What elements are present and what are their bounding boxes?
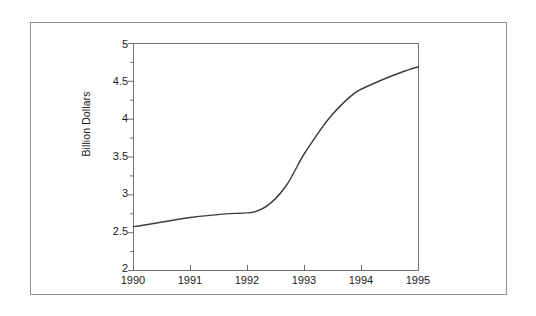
- data-series-line: [134, 67, 419, 227]
- x-axis-major-ticks: [134, 265, 419, 271]
- plot-frame: [134, 44, 419, 271]
- line-chart: Billion Dollars 5 4.5 4 3.5 3 2.5 2 1990…: [0, 0, 536, 316]
- figure-container: Billion Dollars 5 4.5 4 3.5 3 2.5 2 1990…: [0, 0, 536, 316]
- y-axis-major-ticks: [128, 44, 134, 271]
- plot-svg: [0, 0, 536, 316]
